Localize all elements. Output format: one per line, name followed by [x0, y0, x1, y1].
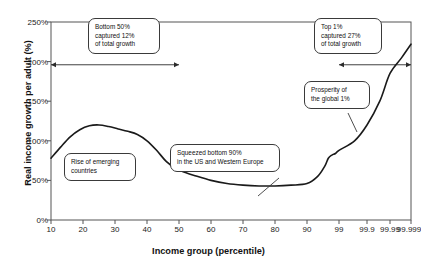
top-1-span-arrow — [339, 62, 411, 67]
arrow-head — [339, 62, 344, 67]
bottom-50-span-arrow — [51, 62, 179, 67]
x-axis-ticks — [51, 220, 411, 224]
squeezed-leader-line — [258, 178, 279, 196]
annotation-prosperity: Prosperity of the global 1% — [304, 81, 370, 109]
arrow-head — [174, 62, 179, 67]
annotation-bottom-50: Bottom 50% captured 12% of total growth — [88, 18, 160, 54]
span-arrows — [51, 62, 411, 67]
annotation-rise-of-emerging: Rise of emerging countries — [64, 153, 136, 181]
prosperity-leader-line — [348, 113, 357, 132]
y-axis-ticks — [47, 22, 51, 220]
arrow-head — [406, 62, 411, 67]
arrow-head — [51, 62, 56, 67]
annotation-top-1: Top 1% captured 27% of total growth — [314, 18, 382, 54]
annotation-squeezed-bottom-90: Squeezed bottom 90% in the US and Wester… — [170, 144, 280, 172]
